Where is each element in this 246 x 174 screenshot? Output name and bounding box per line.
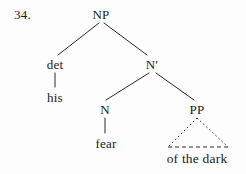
tree-leaf-of-the-dark: of the dark <box>167 152 228 165</box>
branch-nbar-pp <box>156 73 194 100</box>
tree-branch-lines <box>0 0 246 174</box>
triangle-left-edge <box>168 118 197 147</box>
tree-node-np: NP <box>92 8 109 21</box>
tree-node-n: N <box>100 103 110 116</box>
tree-leaf-his: his <box>47 91 63 104</box>
tree-leaf-fear: fear <box>96 137 117 150</box>
branch-np-det <box>58 23 99 55</box>
syntax-tree-figure: 34. NP det his N′ N fear PP of the dark <box>0 0 246 174</box>
tree-node-n-bar: N′ <box>146 58 159 71</box>
tree-node-det: det <box>47 58 63 71</box>
branch-nbar-n <box>106 73 149 100</box>
tree-node-pp: PP <box>190 103 205 116</box>
branch-np-nbar <box>104 23 147 55</box>
triangle-right-edge <box>197 118 228 147</box>
